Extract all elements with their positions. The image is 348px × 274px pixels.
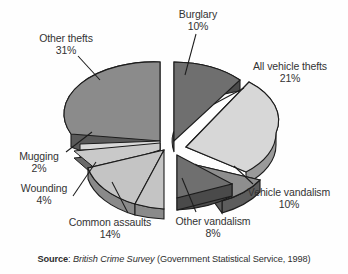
leader-other-thefts: [78, 56, 100, 80]
label-all-vehicle-thefts: All vehicle thefts 21%: [233, 60, 347, 84]
label-all-vehicle-thefts-pct: 21%: [233, 72, 347, 84]
label-other-thefts: Other thefts 31%: [22, 32, 110, 56]
source-attribution: (Government Statistical Service, 1998): [155, 254, 311, 264]
label-other-vandalism: Other vandalism 8%: [161, 215, 265, 239]
label-common-assaults-name: Common assaults: [69, 216, 152, 228]
source-label: Source: [37, 254, 68, 264]
label-burglary: Burglary 10%: [156, 8, 240, 32]
label-vehicle-vandalism-pct: 10%: [232, 198, 346, 210]
label-burglary-pct: 10%: [156, 20, 240, 32]
label-common-assaults-pct: 14%: [55, 228, 165, 240]
source-caption: Source: British Crime Survey (Government…: [0, 254, 348, 264]
label-mugging-pct: 2%: [8, 162, 70, 174]
label-other-thefts-pct: 31%: [22, 44, 110, 56]
label-other-vandalism-pct: 8%: [161, 227, 265, 239]
label-burglary-name: Burglary: [179, 8, 217, 20]
label-wounding-name: Wounding: [21, 182, 67, 194]
label-all-vehicle-thefts-name: All vehicle thefts: [253, 60, 327, 72]
label-mugging: Mugging 2%: [8, 150, 70, 174]
label-vehicle-vandalism-name: Vehicle vandalism: [248, 186, 330, 198]
pie-chart-figure: Burglary 10% All vehicle thefts 21% Vehi…: [0, 0, 348, 274]
label-mugging-name: Mugging: [19, 150, 59, 162]
label-other-vandalism-name: Other vandalism: [176, 215, 251, 227]
label-wounding-pct: 4%: [11, 194, 77, 206]
label-vehicle-vandalism: Vehicle vandalism 10%: [232, 186, 346, 210]
label-wounding: Wounding 4%: [11, 182, 77, 206]
source-publication: British Crime Survey: [73, 254, 155, 264]
label-common-assaults: Common assaults 14%: [55, 216, 165, 240]
label-other-thefts-name: Other thefts: [39, 32, 93, 44]
